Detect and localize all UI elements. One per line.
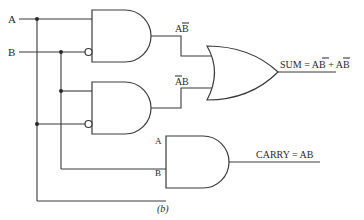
carry-input-b-label: B xyxy=(155,168,161,178)
wire-and-to-or xyxy=(151,36,212,108)
or-gate xyxy=(207,46,278,100)
and-gate-carry xyxy=(166,136,229,188)
inverter-bubble-b xyxy=(85,49,92,56)
svg-text:B: B xyxy=(182,23,189,34)
junction-dot-a2 xyxy=(35,122,39,126)
svg-text:B: B xyxy=(182,76,189,87)
and-gate-2 xyxy=(85,82,151,134)
and-gate-1 xyxy=(85,10,151,62)
junction-dot-b1 xyxy=(59,50,63,54)
carry-input-a-label: A xyxy=(155,136,162,146)
figure-caption: (b) xyxy=(157,203,169,215)
junction-dot-a1 xyxy=(35,17,39,21)
carry-label: CARRY = AB xyxy=(256,149,314,160)
input-b-label: B xyxy=(8,46,15,58)
inverter-bubble-a xyxy=(85,121,92,128)
half-adder-diagram: A B A B A B xyxy=(0,0,364,220)
and2-output-label: A B xyxy=(175,76,189,87)
and1-output-label: A B xyxy=(175,23,189,34)
sum-label: SUM = AB + AB xyxy=(280,58,350,70)
svg-text:SUM = AB + AB: SUM = AB + AB xyxy=(280,59,350,70)
input-a-label: A xyxy=(8,13,16,25)
junction-dot-b2 xyxy=(59,89,63,93)
